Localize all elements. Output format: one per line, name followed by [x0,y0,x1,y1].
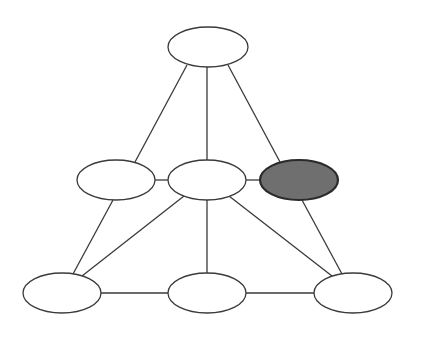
graph-diagram [0,0,422,338]
node-mid-center [168,160,246,200]
node-bottom-center [168,273,246,313]
node-bottom-left [23,273,101,313]
node-top [168,27,248,67]
node-mid-left [77,160,155,200]
node-bottom-right [314,273,392,313]
node-mid-right-highlighted [260,160,338,200]
